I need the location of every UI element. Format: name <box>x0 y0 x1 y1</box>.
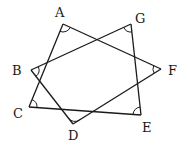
edge-d-b <box>31 70 73 124</box>
edge-e-c <box>29 107 141 115</box>
vertex-label-b: B <box>12 63 22 78</box>
vertex-label-c: C <box>13 106 23 121</box>
vertex-label-e: E <box>142 120 152 135</box>
angle-mark-c <box>32 100 37 108</box>
star-edges <box>29 24 161 124</box>
edge-c-a <box>29 24 63 107</box>
angle-mark-f <box>153 66 154 74</box>
vertex-label-f: F <box>168 63 177 78</box>
angle-mark-e <box>133 107 140 114</box>
edge-b-g <box>31 24 131 70</box>
vertex-label-g: G <box>135 11 145 26</box>
heptagram-diagram: A G F E D C B <box>0 0 188 147</box>
edge-g-e <box>131 24 141 115</box>
vertex-label-d: D <box>68 128 78 143</box>
edge-a-f <box>63 24 161 69</box>
angle-mark-g <box>124 27 132 32</box>
vertex-label-a: A <box>54 5 65 20</box>
edge-f-d <box>73 69 161 124</box>
